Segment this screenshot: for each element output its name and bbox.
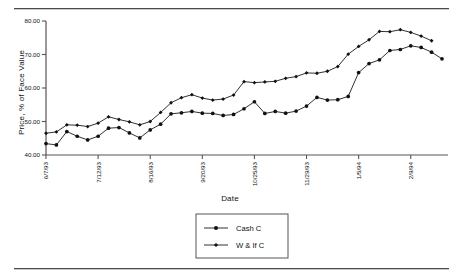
y-tick-label: 40.00 xyxy=(25,151,41,158)
data-point xyxy=(336,98,340,102)
data-point xyxy=(440,57,444,61)
data-point xyxy=(96,134,100,138)
x-tick-label: 6/7/93 xyxy=(42,161,49,179)
data-series xyxy=(44,28,444,147)
data-point xyxy=(409,44,413,48)
data-point xyxy=(86,138,90,142)
x-tick-label: 11/29/93 xyxy=(303,161,310,185)
legend-label: Cash C xyxy=(236,224,262,233)
figure-container: Price, % of Face Value Date 40.0050.0060… xyxy=(0,0,463,280)
legend-marker xyxy=(214,226,218,230)
data-point xyxy=(117,118,121,122)
data-point xyxy=(221,114,225,118)
data-point xyxy=(284,111,288,115)
data-point xyxy=(200,96,204,100)
y-tick-label: 60.00 xyxy=(25,84,41,91)
data-point xyxy=(378,58,382,62)
data-point xyxy=(55,143,59,147)
x-tick-label: 7/12/93 xyxy=(95,161,102,182)
data-point xyxy=(117,126,121,130)
data-point xyxy=(221,97,225,101)
data-point xyxy=(75,123,79,127)
data-point xyxy=(190,93,194,97)
data-point xyxy=(419,46,423,50)
data-point xyxy=(242,107,246,111)
data-point xyxy=(419,34,423,38)
x-tick-label: 2/9/94 xyxy=(407,161,414,179)
data-point xyxy=(430,50,434,54)
data-point xyxy=(305,71,309,75)
line-chart: 40.0050.0060.0070.0080.00 6/7/937/12/938… xyxy=(0,0,463,280)
data-point xyxy=(357,71,361,75)
data-point xyxy=(315,71,319,75)
data-point xyxy=(75,134,79,138)
data-point xyxy=(409,30,413,34)
data-point xyxy=(430,39,434,43)
data-point xyxy=(65,130,69,134)
data-point xyxy=(159,122,163,126)
x-tick-label: 9/20/93 xyxy=(199,161,206,182)
data-point xyxy=(180,96,184,100)
data-point xyxy=(200,111,204,115)
series-line xyxy=(46,46,442,145)
legend-box xyxy=(196,214,288,258)
data-point xyxy=(253,100,257,104)
data-point xyxy=(232,113,236,117)
data-point xyxy=(315,96,319,100)
series-line xyxy=(46,30,432,134)
y-axis: 40.0050.0060.0070.0080.00 xyxy=(25,17,46,158)
y-tick-label: 70.00 xyxy=(25,51,41,58)
y-tick-label: 50.00 xyxy=(25,118,41,125)
chart-legend: Cash CW & If C xyxy=(196,214,288,258)
data-point xyxy=(263,112,267,116)
data-point xyxy=(107,126,111,130)
data-point xyxy=(86,125,90,129)
data-point xyxy=(398,28,402,32)
data-point xyxy=(346,95,350,99)
x-tick-label: 1/5/94 xyxy=(355,161,362,179)
data-point xyxy=(325,69,329,73)
legend-label: W & If C xyxy=(236,241,265,250)
data-point xyxy=(273,110,277,114)
data-point xyxy=(388,49,392,53)
data-point xyxy=(284,76,288,80)
data-point xyxy=(211,98,215,102)
x-axis: 6/7/937/12/938/16/939/20/9310/25/9311/29… xyxy=(42,155,448,186)
x-tick-label: 8/16/93 xyxy=(147,161,154,182)
data-point xyxy=(169,112,173,116)
data-point xyxy=(305,104,309,108)
data-point xyxy=(190,110,194,114)
data-point xyxy=(127,120,131,124)
data-point xyxy=(263,80,267,84)
data-point xyxy=(273,79,277,83)
data-point xyxy=(180,111,184,115)
data-point xyxy=(138,136,142,140)
data-point xyxy=(211,112,215,116)
data-point xyxy=(388,30,392,34)
data-point xyxy=(138,123,142,127)
data-point xyxy=(294,75,298,79)
data-point xyxy=(148,128,152,132)
data-point xyxy=(367,62,371,66)
data-point xyxy=(294,109,298,113)
data-point xyxy=(44,142,48,146)
x-tick-label: 10/25/93 xyxy=(251,161,258,186)
data-point xyxy=(44,131,48,135)
data-point xyxy=(326,98,330,102)
y-tick-label: 80.00 xyxy=(25,17,41,24)
data-point xyxy=(253,81,257,85)
data-point xyxy=(128,131,132,135)
data-point xyxy=(398,48,402,52)
